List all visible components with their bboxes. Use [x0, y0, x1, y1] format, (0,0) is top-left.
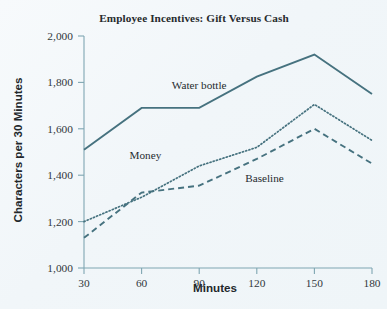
x-tick-label: 120: [248, 277, 265, 289]
x-tick-label: 60: [136, 277, 148, 289]
y-tick-label: 1,200: [47, 216, 73, 228]
x-tick-label: 90: [194, 277, 206, 289]
series-annotations: Water bottleMoneyBaseline: [130, 79, 284, 184]
x-tick-label: 150: [306, 277, 323, 289]
x-tick-label: 180: [363, 277, 380, 289]
chart-container: Employee Incentives: Gift Versus Cash Ch…: [0, 0, 387, 309]
y-tick-label: 1,000: [47, 262, 73, 274]
data-series-group: [84, 55, 372, 238]
y-tick-label: 2,000: [47, 30, 73, 42]
chart-title: Employee Incentives: Gift Versus Cash: [99, 12, 289, 24]
series-label-water-bottle: Water bottle: [172, 79, 227, 91]
series-line-baseline: [84, 129, 372, 238]
line-chart: Employee Incentives: Gift Versus Cash Ch…: [0, 0, 387, 309]
series-label-baseline: Baseline: [245, 172, 284, 184]
y-axis: 1,0001,2001,4001,6001,8002,000: [47, 30, 84, 274]
x-tick-label: 30: [78, 277, 90, 289]
series-label-money: Money: [130, 149, 162, 161]
y-tick-label: 1,400: [47, 169, 73, 181]
y-tick-label: 1,600: [47, 123, 73, 135]
y-axis-title: Characters per 30 Minutes: [11, 78, 24, 223]
y-tick-label: 1,800: [47, 76, 73, 88]
series-line-water-bottle: [84, 55, 372, 150]
